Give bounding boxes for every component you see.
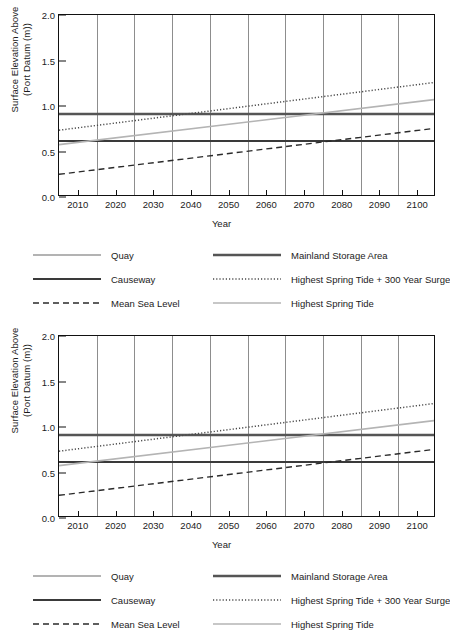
- legend-label: Highest Spring Tide + 300 Year Surge: [291, 595, 450, 606]
- x-tick-label: 2090: [369, 520, 390, 531]
- legend-row: Mean Sea LevelHighest Spring Tide: [0, 612, 443, 636]
- legend-label: Highest Spring Tide: [291, 619, 374, 630]
- legend-swatch-icon: [213, 593, 281, 607]
- plot-area-top: Surface Elevation Above (Port Datum (m))…: [0, 0, 443, 215]
- y-tick-mark: [59, 197, 66, 198]
- legend-label: Mean Sea Level: [111, 298, 180, 309]
- legend-item-highest-spring-tide[interactable]: Highest Spring Tide: [213, 291, 374, 315]
- legend-item-highest-spring-tide[interactable]: Highest Spring Tide: [213, 612, 374, 636]
- x-tick-label: 2030: [143, 199, 164, 210]
- y-axis-title-line2: (Port Datum (m)): [20, 301, 32, 461]
- legend-swatch-icon: [33, 296, 101, 310]
- legend-label: Mainland Storage Area: [291, 571, 388, 582]
- x-tick-label: 2050: [218, 520, 239, 531]
- x-tick-label: 2010: [67, 199, 88, 210]
- y-tick-label: 1.5: [42, 376, 55, 387]
- legend-label: Causeway: [111, 274, 155, 285]
- y-axis-title-line2: (Port Datum (m)): [20, 0, 32, 140]
- y-tick-label: 1.5: [42, 55, 55, 66]
- legend-top: QuayMainland Storage AreaCausewayHighest…: [0, 243, 443, 315]
- legend-label: Mainland Storage Area: [291, 250, 388, 261]
- x-tick-label: 2070: [293, 199, 314, 210]
- legend-item-causeway[interactable]: Causeway: [33, 588, 155, 612]
- y-axis-title-bottom: Surface Elevation Above (Port Datum (m)): [9, 301, 32, 461]
- figure-bottom: Surface Elevation Above (Port Datum (m))…: [0, 321, 443, 641]
- legend-row: Mean Sea LevelHighest Spring Tide: [0, 291, 443, 315]
- legend-swatch-icon: [213, 617, 281, 631]
- x-tick-label: 2070: [293, 520, 314, 531]
- legend-item-causeway[interactable]: Causeway: [33, 267, 155, 291]
- y-axis-title-top: Surface Elevation Above (Port Datum (m)): [9, 0, 32, 140]
- legend-swatch-icon: [33, 617, 101, 631]
- legend-swatch-icon: [213, 248, 281, 262]
- legend-swatch-icon: [33, 593, 101, 607]
- figure-top: Surface Elevation Above (Port Datum (m))…: [0, 0, 443, 320]
- legend-swatch-icon: [213, 272, 281, 286]
- legend-row: CausewayHighest Spring Tide + 300 Year S…: [0, 267, 443, 291]
- legend-swatch-icon: [33, 569, 101, 583]
- plot-area-bottom: Surface Elevation Above (Port Datum (m))…: [0, 321, 443, 536]
- x-tick-label: 2080: [331, 199, 352, 210]
- x-tick-label: 2010: [67, 520, 88, 531]
- legend-row: QuayMainland Storage Area: [0, 564, 443, 588]
- series-line-highest-spring-tide: [59, 100, 434, 145]
- legend-item-quay[interactable]: Quay: [33, 564, 134, 588]
- plot-frame-top: 0.00.51.01.52.02010202020302040205020602…: [58, 14, 435, 196]
- y-tick-label: 1.0: [42, 101, 55, 112]
- legend-label: Causeway: [111, 595, 155, 606]
- legend-item-highest-spring-tide-300-year-surge[interactable]: Highest Spring Tide + 300 Year Surge: [213, 267, 450, 291]
- y-tick-label: 0.0: [42, 192, 55, 203]
- y-tick-label: 1.0: [42, 422, 55, 433]
- x-tick-label: 2050: [218, 199, 239, 210]
- y-axis-title-line1: Surface Elevation Above: [9, 301, 21, 461]
- legend-swatch-icon: [33, 272, 101, 286]
- x-tick-label: 2090: [369, 199, 390, 210]
- y-tick-label: 2.0: [42, 10, 55, 21]
- legend-item-mainland-storage-area[interactable]: Mainland Storage Area: [213, 564, 388, 588]
- x-tick-label: 2040: [180, 199, 201, 210]
- series-line-highest-spring-tide: [59, 421, 434, 466]
- x-tick-label: 2100: [407, 520, 428, 531]
- x-tick-label: 2020: [105, 199, 126, 210]
- legend-item-quay[interactable]: Quay: [33, 243, 134, 267]
- series-line-mean-sea-level: [59, 128, 434, 174]
- legend-item-mainland-storage-area[interactable]: Mainland Storage Area: [213, 243, 388, 267]
- legend-swatch-icon: [33, 248, 101, 262]
- series-line-mean-sea-level: [59, 449, 434, 495]
- x-tick-label: 2100: [407, 199, 428, 210]
- y-axis-title-line1: Surface Elevation Above: [9, 0, 21, 140]
- x-tick-label: 2040: [180, 520, 201, 531]
- legend-row: QuayMainland Storage Area: [0, 243, 443, 267]
- x-tick-label: 2060: [256, 199, 277, 210]
- legend-item-mean-sea-level[interactable]: Mean Sea Level: [33, 291, 180, 315]
- y-tick-mark: [59, 518, 66, 519]
- x-axis-title-bottom: Year: [0, 539, 443, 550]
- y-tick-label: 0.0: [42, 513, 55, 524]
- y-tick-label: 0.5: [42, 467, 55, 478]
- x-tick-label: 2060: [256, 520, 277, 531]
- legend-row: CausewayHighest Spring Tide + 300 Year S…: [0, 588, 443, 612]
- legend-item-highest-spring-tide-300-year-surge[interactable]: Highest Spring Tide + 300 Year Surge: [213, 588, 450, 612]
- legend-swatch-icon: [213, 296, 281, 310]
- series-layer: [59, 336, 434, 516]
- y-tick-label: 0.5: [42, 146, 55, 157]
- x-axis-title-top: Year: [0, 218, 443, 229]
- legend-label: Mean Sea Level: [111, 619, 180, 630]
- x-tick-label: 2020: [105, 520, 126, 531]
- legend-label: Quay: [111, 571, 134, 582]
- legend-swatch-icon: [213, 569, 281, 583]
- y-tick-label: 2.0: [42, 331, 55, 342]
- plot-frame-bottom: 0.00.51.01.52.02010202020302040205020602…: [58, 335, 435, 517]
- x-tick-label: 2080: [331, 520, 352, 531]
- series-layer: [59, 15, 434, 195]
- x-tick-label: 2030: [143, 520, 164, 531]
- legend-label: Highest Spring Tide + 300 Year Surge: [291, 274, 450, 285]
- legend-item-mean-sea-level[interactable]: Mean Sea Level: [33, 612, 180, 636]
- legend-label: Highest Spring Tide: [291, 298, 374, 309]
- legend-bottom: QuayMainland Storage AreaCausewayHighest…: [0, 564, 443, 636]
- legend-label: Quay: [111, 250, 134, 261]
